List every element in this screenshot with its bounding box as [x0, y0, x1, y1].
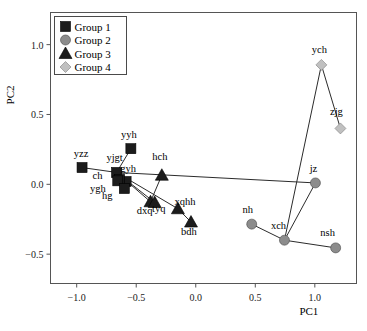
y-axis-title: PC2: [4, 86, 16, 105]
x-tick-label: 0.5: [249, 292, 262, 303]
point-label-zjg: zjg: [330, 106, 344, 117]
point-label-nh: nh: [242, 204, 253, 215]
x-tick-label: 0.0: [190, 292, 203, 303]
data-point-yzz: [77, 163, 87, 173]
x-axis-title: PC1: [299, 305, 318, 317]
legend-marker-1: [61, 22, 71, 32]
y-tick-label: 0.0: [31, 179, 44, 190]
connection-line: [117, 172, 316, 182]
point-label-gyh: gyh: [120, 163, 137, 174]
point-label-jz: jz: [309, 163, 318, 174]
point-label-yyh: yyh: [121, 129, 138, 140]
legend-label-1: Group 1: [75, 21, 111, 33]
x-tick-label: −1.0: [68, 292, 86, 303]
point-label-yzz: yzz: [74, 148, 89, 159]
pca-scatter-figure: −1.0−0.50.00.51.01.00.50.0−0.5PC1PC2yzzy…: [0, 0, 367, 331]
legend-label-3: Group 3: [75, 48, 112, 60]
point-label-ych: ych: [312, 44, 328, 55]
point-label-dxq: dxq: [137, 205, 154, 216]
data-point-jz: [310, 178, 320, 188]
y-tick-label: 0.5: [31, 109, 44, 120]
y-tick-label: −0.5: [25, 249, 43, 260]
data-point-yyh: [126, 144, 136, 154]
connection-line: [284, 183, 315, 240]
legend-label-4: Group 4: [75, 61, 112, 73]
point-label-xqhh: xqhh: [174, 196, 196, 207]
data-point-zjg: [335, 123, 346, 134]
point-label-nsh: nsh: [320, 227, 335, 238]
data-point-ych: [316, 59, 327, 70]
x-tick-label: −0.5: [127, 292, 145, 303]
y-tick-label: 1.0: [31, 40, 44, 51]
connection-line: [321, 65, 340, 129]
point-label-hch: hch: [152, 151, 168, 162]
connection-line: [284, 240, 335, 248]
data-point-nh: [247, 219, 257, 229]
point-label-hg: hg: [102, 190, 113, 201]
point-label-bdh: bdh: [181, 226, 198, 237]
data-point-hg: [119, 184, 129, 194]
legend-label-2: Group 2: [75, 34, 111, 46]
point-label-ch: ch: [93, 170, 104, 181]
point-label-xch: xch: [271, 220, 287, 231]
x-tick-label: 1.0: [309, 292, 322, 303]
data-point-nsh: [331, 243, 341, 253]
data-point-xch: [279, 235, 289, 245]
legend-marker-2: [61, 35, 71, 45]
connection-line: [284, 65, 321, 240]
plot-canvas: −1.0−0.50.00.51.01.00.50.0−0.5PC1PC2yzzy…: [0, 0, 367, 331]
point-label-tyq: tyq: [152, 203, 166, 214]
